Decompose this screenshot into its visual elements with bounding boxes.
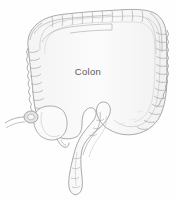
appendix-tip [61, 140, 66, 145]
cecum [34, 106, 67, 140]
appendix [57, 139, 69, 147]
colon-anatomy-diagram [0, 0, 176, 200]
ileocecal-valve-inner [28, 114, 35, 120]
ileum-lower-wall [6, 122, 25, 128]
colon-illustration-figure: Colon [0, 0, 176, 200]
colon-body-group [5, 9, 169, 194]
colon-outer-wall [28, 9, 167, 194]
colon-label: Colon [0, 66, 176, 77]
